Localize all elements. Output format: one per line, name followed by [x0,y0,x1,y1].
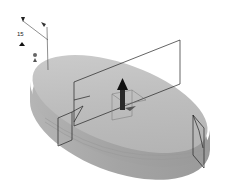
arrow-shaft [120,88,125,110]
3d-viewport[interactable]: 15 [0,0,235,184]
handle-pin-1[interactable] [21,17,48,40]
scene [0,0,235,184]
dimension-label: 15 [17,31,24,37]
handle-pin-4[interactable] [33,53,37,62]
handle-pin-3[interactable] [19,42,25,46]
